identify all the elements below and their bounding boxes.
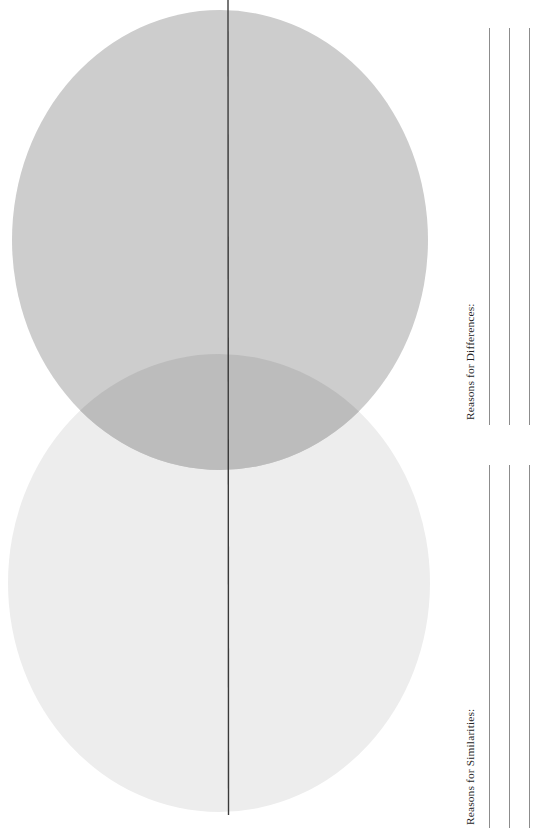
writing-line[interactable]: [509, 28, 510, 425]
venn-diagram-svg: [0, 0, 440, 838]
label-reasons-for-differences: Reasons for Differences:: [464, 303, 476, 420]
center-fold-line: [228, 0, 229, 815]
writing-lines-differences[interactable]: [485, 28, 530, 425]
worksheet-page: Reasons for Differences: Reasons for Sim…: [0, 0, 547, 838]
writing-line[interactable]: [509, 465, 510, 828]
writing-lines-similarities[interactable]: [485, 465, 530, 828]
writing-line[interactable]: [529, 465, 530, 828]
label-reasons-for-similarities: Reasons for Similarities:: [464, 709, 476, 825]
venn-diagram: [0, 0, 440, 838]
section-reasons-for-differences: Reasons for Differences:: [440, 0, 547, 440]
writing-line[interactable]: [529, 28, 530, 425]
section-reasons-for-similarities: Reasons for Similarities:: [440, 440, 547, 838]
writing-line[interactable]: [489, 465, 490, 828]
worksheet-panel: Reasons for Differences: Reasons for Sim…: [440, 0, 547, 838]
writing-line[interactable]: [489, 28, 490, 425]
